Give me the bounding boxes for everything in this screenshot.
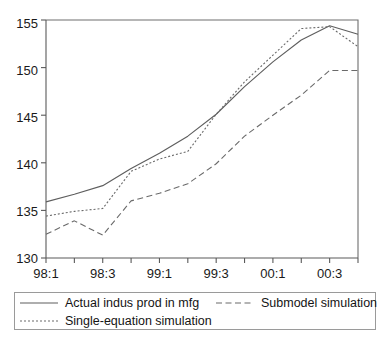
x-tick-marks bbox=[46, 258, 358, 263]
data-series-group bbox=[46, 26, 358, 235]
legend-label-actual: Actual indus prod in mfg bbox=[65, 296, 199, 310]
x-axis-tick-labels: 98:198:399:199:300:100:3 bbox=[33, 266, 342, 281]
x-tick-label: 99:1 bbox=[147, 266, 172, 281]
legend-entry-actual: Actual indus prod in mfg bbox=[19, 296, 215, 310]
legend-label-submodel: Submodel simulation bbox=[261, 296, 377, 310]
legend-row-second: Single-equation simulation bbox=[15, 312, 375, 330]
x-tick-label: 99:3 bbox=[204, 266, 229, 281]
y-tick-label: 155 bbox=[16, 16, 38, 31]
y-tick-label: 130 bbox=[16, 251, 38, 266]
x-tick-label: 98:3 bbox=[90, 266, 115, 281]
x-tick-label: 00:3 bbox=[317, 266, 342, 281]
legend-line-dashed-icon bbox=[215, 298, 255, 308]
line-chart-svg: 130 135 140 145 150 155 98:198:399:199:3… bbox=[0, 0, 392, 285]
series-line-submodel bbox=[46, 70, 358, 235]
y-tick-label: 140 bbox=[16, 157, 38, 172]
y-tick-label: 145 bbox=[16, 110, 38, 125]
legend-entry-single-equation: Single-equation simulation bbox=[19, 314, 269, 328]
plot-area: 130 135 140 145 150 155 98:198:399:199:3… bbox=[0, 0, 392, 285]
plot-frame-top-right bbox=[46, 20, 358, 258]
x-tick-label: 00:1 bbox=[260, 266, 285, 281]
y-axis-tick-labels: 130 135 140 145 150 155 bbox=[16, 16, 38, 266]
y-tick-label: 150 bbox=[16, 63, 38, 78]
chart-legend: Actual indus prod in mfg Submodel simula… bbox=[14, 292, 376, 330]
y-tick-marks bbox=[41, 20, 46, 258]
chart-figure: 130 135 140 145 150 155 98:198:399:199:3… bbox=[0, 0, 392, 339]
axis-frame bbox=[46, 20, 358, 258]
legend-entry-submodel: Submodel simulation bbox=[215, 296, 375, 310]
series-line-single-equation bbox=[46, 27, 358, 216]
legend-line-dotted-icon bbox=[19, 316, 59, 326]
legend-line-solid-icon bbox=[19, 298, 59, 308]
x-tick-label: 98:1 bbox=[33, 266, 58, 281]
series-line-actual bbox=[46, 26, 358, 202]
legend-row-first: Actual indus prod in mfg Submodel simula… bbox=[15, 294, 375, 312]
legend-label-single-equation: Single-equation simulation bbox=[65, 314, 212, 328]
y-tick-label: 135 bbox=[16, 204, 38, 219]
